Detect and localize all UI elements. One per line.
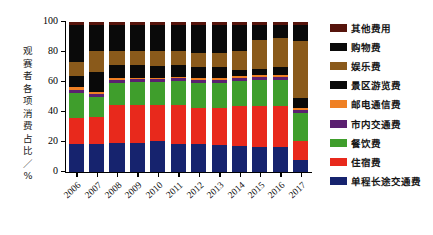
y-axis-title-char: 赛 bbox=[23, 58, 33, 71]
legend-item[interactable]: 购物费 bbox=[330, 37, 433, 56]
legend: 其他费用购物费娱乐费景区游览费邮电通信费市内交通费餐饮费住宿费单程长途交通费 bbox=[330, 18, 433, 191]
bar-segment bbox=[109, 80, 124, 83]
y-axis-tick-label: 80 bbox=[48, 45, 58, 56]
legend-item[interactable]: 景区游览费 bbox=[330, 76, 433, 95]
bar-segment bbox=[150, 78, 165, 80]
bar-segment bbox=[191, 108, 206, 145]
x-axis-tick-label: 2007 bbox=[83, 180, 104, 200]
bar-segment bbox=[191, 80, 206, 83]
bar-segment bbox=[232, 22, 247, 25]
x-axis-tick-label: 2011 bbox=[164, 180, 185, 200]
x-axis-tick: 2015 bbox=[260, 172, 261, 177]
bar-segment bbox=[293, 113, 308, 141]
bar-segment bbox=[130, 65, 145, 78]
bar-segment bbox=[293, 25, 308, 41]
bar-stack bbox=[293, 22, 308, 172]
bar-segment bbox=[69, 93, 84, 119]
bar-segment bbox=[69, 22, 84, 25]
bar-segment bbox=[109, 143, 124, 172]
bar-segment bbox=[89, 22, 104, 25]
y-axis-tick-label: 100 bbox=[43, 15, 58, 26]
bar-stack bbox=[150, 22, 165, 172]
x-axis-tick-label: 2008 bbox=[103, 180, 124, 200]
bar-segment bbox=[293, 22, 308, 25]
y-axis-tick: 20 bbox=[61, 141, 66, 142]
legend-item[interactable]: 餐饮费 bbox=[330, 133, 433, 152]
x-axis-tick: 2012 bbox=[199, 172, 200, 177]
bar-segment bbox=[171, 77, 186, 79]
bar-segment bbox=[150, 79, 165, 82]
bar-segment bbox=[252, 25, 267, 40]
legend-item-label: 市内交通费 bbox=[351, 117, 401, 131]
bar-segment bbox=[130, 105, 145, 143]
legend-color-swatch bbox=[330, 177, 347, 185]
legend-item-label: 娱乐费 bbox=[351, 59, 381, 73]
bar-segment bbox=[191, 67, 206, 78]
bar-segment bbox=[89, 25, 104, 51]
bar-segment bbox=[69, 144, 84, 173]
bar-segment bbox=[69, 87, 84, 89]
bar-segment bbox=[252, 106, 267, 147]
y-axis-tick: 80 bbox=[61, 51, 66, 52]
legend-item-label: 单程长途交通费 bbox=[351, 174, 421, 188]
bar-segment bbox=[150, 22, 165, 25]
bar-segment bbox=[150, 141, 165, 172]
bar-segment bbox=[293, 160, 308, 172]
bar-segment bbox=[212, 83, 227, 108]
x-axis-tick: 2016 bbox=[280, 172, 281, 177]
bar-segment bbox=[273, 22, 288, 25]
bar-segment bbox=[69, 90, 84, 93]
y-axis-title-char: 费 bbox=[23, 120, 33, 133]
bar-segment bbox=[232, 76, 247, 78]
bar-segment bbox=[171, 81, 186, 104]
x-axis-tick: 2007 bbox=[97, 172, 98, 177]
bar-stack bbox=[109, 22, 124, 172]
bar-stack bbox=[130, 22, 145, 172]
bar-segment bbox=[191, 22, 206, 25]
bar-segment bbox=[171, 78, 186, 81]
bar-segment bbox=[109, 65, 124, 79]
bar-segment bbox=[232, 70, 247, 76]
bar-stack bbox=[232, 22, 247, 172]
bar-segment bbox=[293, 110, 308, 113]
stacked-bar-chart-figure: 观赛者各项消费占比／% 020406080100 200620072008200… bbox=[0, 0, 433, 235]
bar-segment bbox=[69, 25, 84, 62]
legend-item-label: 购物费 bbox=[351, 40, 381, 54]
bar-segment bbox=[130, 25, 145, 51]
legend-item[interactable]: 住宿费 bbox=[330, 152, 433, 171]
legend-item-label: 餐饮费 bbox=[351, 136, 381, 150]
legend-item-label: 其他费用 bbox=[351, 21, 391, 35]
legend-item[interactable]: 市内交通费 bbox=[330, 114, 433, 133]
bar-segment bbox=[150, 105, 165, 142]
bar-segment bbox=[212, 67, 227, 78]
y-axis-title-char: 观 bbox=[23, 45, 33, 58]
bar-segment bbox=[89, 97, 104, 117]
bar-stack bbox=[273, 22, 288, 172]
bar-segment bbox=[130, 82, 145, 105]
bar-segment bbox=[273, 80, 288, 106]
x-axis-tick: 2014 bbox=[240, 172, 241, 177]
x-axis-tick: 2011 bbox=[178, 172, 179, 177]
bar-segment bbox=[273, 38, 288, 67]
bar-segment bbox=[212, 53, 227, 67]
bar-stack bbox=[171, 22, 186, 172]
legend-item[interactable]: 邮电通信费 bbox=[330, 95, 433, 114]
bar-segment bbox=[89, 51, 104, 72]
legend-item[interactable]: 娱乐费 bbox=[330, 56, 433, 75]
legend-item[interactable]: 单程长途交通费 bbox=[330, 172, 433, 191]
bar-segment bbox=[150, 66, 165, 78]
bar-segment bbox=[232, 78, 247, 81]
x-axis-tick-label: 2014 bbox=[225, 180, 246, 200]
bar-segment bbox=[252, 69, 267, 76]
bar-segment bbox=[130, 22, 145, 25]
bar-segment bbox=[212, 78, 227, 80]
x-axis-tick-label: 2016 bbox=[266, 180, 287, 200]
bar-segment bbox=[273, 106, 288, 147]
bar-segment bbox=[89, 94, 104, 97]
bar-segment bbox=[171, 51, 186, 65]
bar-segment bbox=[212, 145, 227, 172]
y-axis-line bbox=[65, 21, 66, 173]
bar-segment bbox=[252, 77, 267, 80]
legend-item[interactable]: 其他费用 bbox=[330, 18, 433, 37]
bar-segment bbox=[150, 82, 165, 105]
